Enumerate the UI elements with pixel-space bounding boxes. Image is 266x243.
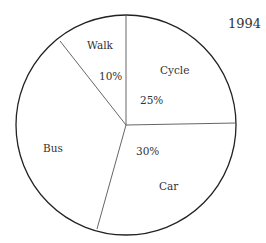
slice-label-cycle: Cycle bbox=[160, 64, 189, 76]
slice-value-cycle: 25% bbox=[140, 94, 163, 106]
slice-label-car: Car bbox=[159, 180, 179, 192]
pie-chart: 1994 Cycle 25% Car 30% Bus Walk 10% bbox=[0, 0, 266, 243]
slice-bus: Bus bbox=[43, 142, 63, 154]
slice-label-bus: Bus bbox=[43, 142, 63, 154]
pie bbox=[16, 15, 236, 235]
slice-value-car: 30% bbox=[136, 145, 159, 157]
chart-title: 1994 bbox=[228, 16, 261, 31]
slice-value-walk: 10% bbox=[99, 70, 122, 82]
slice-label-walk: Walk bbox=[87, 39, 113, 51]
